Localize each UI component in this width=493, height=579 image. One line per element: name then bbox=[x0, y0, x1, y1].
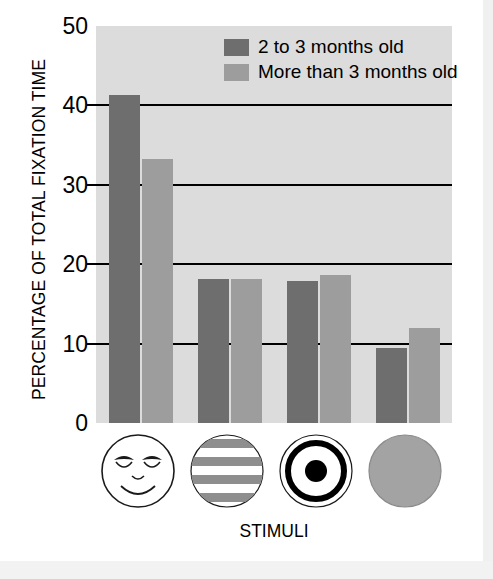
legend-label-light: More than 3 months old bbox=[258, 61, 458, 83]
bar-plain disk-light bbox=[409, 328, 440, 423]
y-axis-tick-label-30: 30 bbox=[40, 174, 88, 197]
legend-swatch-icon-light bbox=[224, 64, 249, 81]
bar-bullseye-light bbox=[320, 275, 351, 423]
x-axis-title: STIMULI bbox=[96, 521, 452, 542]
legend: 2 to 3 months old More than 3 months old bbox=[224, 36, 458, 83]
y-axis-tick-label-0: 0 bbox=[40, 412, 88, 435]
y-axis-tick-label-20: 20 bbox=[40, 253, 88, 276]
bar-stripes-light bbox=[231, 279, 262, 424]
bar-stripes-dark bbox=[198, 279, 229, 424]
bar-bullseye-dark bbox=[287, 281, 318, 423]
y-axis-tick-40 bbox=[87, 104, 96, 106]
horizontal-stripes-icon bbox=[188, 432, 266, 510]
legend-swatch-icon-dark bbox=[224, 39, 249, 56]
page-edge-bottom bbox=[0, 561, 493, 579]
page-edge-right bbox=[483, 0, 493, 579]
legend-item-dark: 2 to 3 months old bbox=[224, 36, 458, 58]
y-axis-tick-label-10: 10 bbox=[40, 333, 88, 356]
y-axis-tick-20 bbox=[87, 263, 96, 265]
plot-area: 2 to 3 months old More than 3 months old bbox=[96, 26, 452, 423]
bullseye-icon bbox=[277, 432, 355, 510]
y-axis-tick-label-50: 50 bbox=[40, 15, 88, 38]
smiling-face-icon bbox=[99, 432, 177, 510]
legend-label-dark: 2 to 3 months old bbox=[258, 36, 404, 58]
y-axis-tick-30 bbox=[87, 184, 96, 186]
gridline-40 bbox=[96, 104, 452, 106]
chart-figure: PERCENTAGE OF TOTAL FIXATION TIME 504030… bbox=[0, 0, 493, 579]
legend-item-light: More than 3 months old bbox=[224, 61, 458, 83]
stimuli-icons-row bbox=[96, 432, 452, 516]
bar-face-dark bbox=[109, 95, 140, 423]
bar-plain disk-dark bbox=[376, 348, 407, 423]
y-axis-tick-label-40: 40 bbox=[40, 94, 88, 117]
y-axis-tick-labels: 50403020100 bbox=[36, 26, 88, 423]
y-axis-tick-10 bbox=[87, 343, 96, 345]
plain-gray-disk-icon bbox=[366, 432, 444, 510]
bar-face-light bbox=[142, 159, 173, 423]
